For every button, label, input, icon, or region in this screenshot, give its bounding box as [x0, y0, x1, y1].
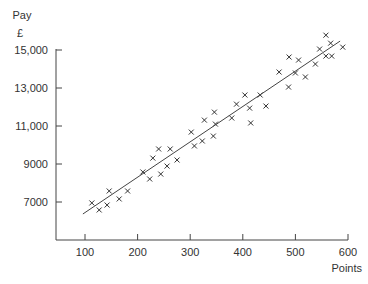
data-point [229, 116, 234, 121]
data-point [286, 85, 291, 90]
data-point [328, 41, 333, 46]
x-tick-label: 100 [76, 246, 94, 258]
data-point [168, 146, 173, 151]
trend-line [83, 41, 340, 214]
data-point [200, 139, 205, 144]
y-tick-label: 9000 [24, 158, 48, 170]
data-point [248, 120, 253, 125]
data-point [313, 62, 318, 67]
x-tick-label: 500 [286, 246, 304, 258]
data-point [296, 58, 301, 63]
data-point [329, 54, 334, 59]
data-point [158, 172, 163, 177]
data-point [211, 134, 216, 139]
y-axis-title: Pay [13, 9, 32, 21]
scatter-chart: Pay £ Points 100200300400500600 70009000… [0, 0, 368, 284]
data-point [323, 54, 328, 59]
data-point [317, 47, 322, 52]
x-axis-title: Points [331, 262, 362, 274]
y-tick-label: 7000 [24, 196, 48, 208]
data-point [105, 203, 110, 208]
data-point [107, 188, 112, 193]
x-tick-label: 300 [181, 246, 199, 258]
y-tick-label: 11,000 [15, 120, 48, 132]
data-point [242, 93, 247, 98]
x-tick-label: 200 [128, 246, 146, 258]
data-point [323, 33, 328, 38]
data-point [189, 130, 194, 135]
data-point [125, 188, 130, 193]
data-point [287, 55, 292, 60]
data-point [263, 104, 268, 109]
data-point [234, 102, 239, 107]
y-axis-unit: £ [17, 27, 23, 39]
y-tick-label: 13,000 [14, 82, 48, 94]
data-point [117, 196, 122, 201]
data-point [340, 45, 345, 50]
data-point [147, 177, 152, 182]
data-point [97, 207, 102, 212]
data-point [175, 158, 180, 163]
data-point [247, 106, 252, 111]
data-point [89, 200, 94, 205]
data-point [212, 110, 217, 115]
data-point [156, 146, 161, 151]
data-point [277, 70, 282, 75]
data-point [150, 156, 155, 161]
data-point [303, 74, 308, 79]
y-tick-label: 15,000 [14, 44, 48, 56]
data-point [165, 164, 170, 169]
x-tick-label: 600 [339, 246, 357, 258]
x-tick-label: 400 [234, 246, 252, 258]
data-point [192, 143, 197, 148]
data-point [202, 118, 207, 123]
